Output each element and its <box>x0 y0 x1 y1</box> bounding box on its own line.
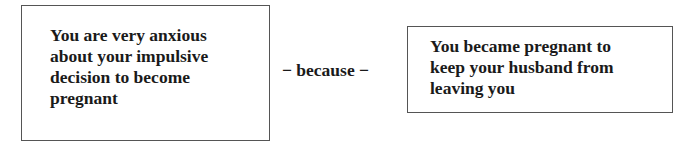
cause-text: You became pregnant to keep your husband… <box>430 36 614 99</box>
cause-box: You became pregnant to keep your husband… <box>407 26 673 113</box>
effect-box: You are very anxious about your impulsiv… <box>21 5 270 141</box>
effect-text: You are very anxious about your impulsiv… <box>50 25 208 109</box>
because-connector: − because − <box>282 60 369 81</box>
